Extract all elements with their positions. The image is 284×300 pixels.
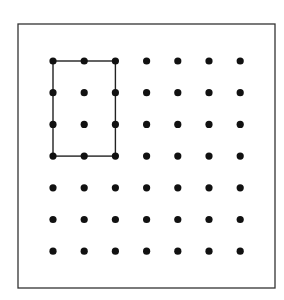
grid-dot	[49, 184, 56, 191]
grid-dot	[205, 121, 212, 128]
grid-dot	[143, 216, 150, 223]
grid-dot	[237, 89, 244, 96]
grid-dot	[112, 216, 119, 223]
grid-dot	[174, 248, 181, 255]
grid-dot	[205, 89, 212, 96]
grid-dot	[143, 184, 150, 191]
grid-dot	[174, 57, 181, 64]
grid-dot	[49, 89, 56, 96]
grid-dot	[49, 121, 56, 128]
grid-dot	[237, 153, 244, 160]
grid-dot	[143, 248, 150, 255]
grid-dot	[112, 184, 119, 191]
grid-dot	[81, 57, 88, 64]
grid-dot	[49, 153, 56, 160]
grid-dot	[237, 57, 244, 64]
grid-dot	[143, 89, 150, 96]
grid-dot	[81, 184, 88, 191]
grid-dot	[205, 57, 212, 64]
grid-dot	[205, 153, 212, 160]
grid-dot	[81, 89, 88, 96]
grid-dot	[174, 153, 181, 160]
grid-dot	[49, 216, 56, 223]
grid-dot	[205, 248, 212, 255]
grid-dot	[81, 153, 88, 160]
grid-dot	[81, 121, 88, 128]
grid-dot	[237, 184, 244, 191]
grid-dot	[143, 121, 150, 128]
grid-dot	[112, 153, 119, 160]
grid-dot	[205, 216, 212, 223]
grid-dot	[174, 89, 181, 96]
grid-dot	[81, 216, 88, 223]
grid-dot	[237, 121, 244, 128]
grid-dot	[49, 248, 56, 255]
grid-dot	[112, 89, 119, 96]
grid-dot	[143, 57, 150, 64]
grid-dot	[174, 121, 181, 128]
grid-dot	[112, 248, 119, 255]
grid-dot	[174, 216, 181, 223]
grid-dot	[49, 57, 56, 64]
geoboard-diagram	[0, 0, 284, 300]
grid-dot	[237, 248, 244, 255]
grid-dot	[112, 57, 119, 64]
grid-dot	[205, 184, 212, 191]
grid-dot	[174, 184, 181, 191]
grid-dot	[237, 216, 244, 223]
grid-dot	[112, 121, 119, 128]
grid-dot	[143, 153, 150, 160]
grid-dot	[81, 248, 88, 255]
